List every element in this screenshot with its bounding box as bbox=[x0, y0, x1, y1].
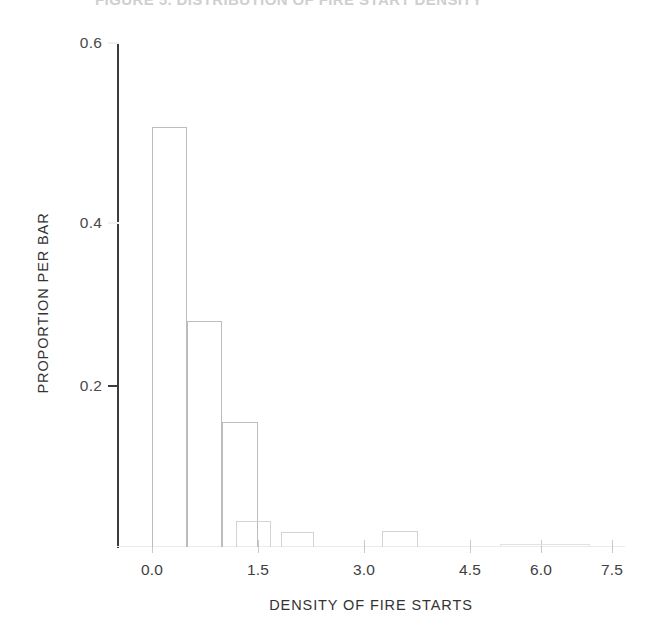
histogram-bar bbox=[152, 127, 187, 547]
x-tick-7.5 bbox=[612, 540, 613, 553]
y-axis-title: PROPORTION PER BAR bbox=[35, 173, 51, 433]
x-tick-3.0-label-wrap: 3.0 bbox=[334, 561, 394, 581]
y-axis-tick-label: 0.2 bbox=[58, 377, 102, 395]
y-tick-0.4-label-wrap: 0.4 bbox=[58, 214, 102, 230]
y-axis-tick-label: 0.6 bbox=[58, 34, 102, 52]
x-axis-title: DENSITY OF FIRE STARTS bbox=[117, 597, 625, 613]
x-tick-1.5-label-wrap: 1.5 bbox=[228, 561, 288, 581]
x-axis-tick-label: 0.0 bbox=[122, 561, 182, 579]
histogram-bar bbox=[187, 321, 222, 547]
x-axis-tick-label: 7.5 bbox=[582, 561, 642, 579]
y-tick-0.2-label-wrap: 0.2 bbox=[58, 377, 102, 393]
plot-area: 0.60.40.2 0.01.53.04.56.07.5 DENSITY OF … bbox=[0, 0, 650, 639]
y-tick-0.6-label-wrap: 0.6 bbox=[58, 34, 102, 50]
y-tick-0.4 bbox=[108, 222, 119, 224]
x-tick-6.0-label-wrap: 6.0 bbox=[511, 561, 571, 581]
x-tick-7.5-label-wrap: 7.5 bbox=[582, 561, 642, 581]
figure-page: FIGURE 5. DISTRIBUTION OF FIRE START DEN… bbox=[0, 0, 650, 639]
x-axis-tick-label: 4.5 bbox=[440, 561, 500, 579]
y-axis-tick-label: 0.4 bbox=[58, 214, 102, 232]
y-tick-0.6 bbox=[108, 42, 119, 44]
x-tick-4.5-label-wrap: 4.5 bbox=[440, 561, 500, 581]
x-tick-4.5 bbox=[470, 540, 471, 553]
histogram-bar bbox=[236, 521, 271, 547]
x-tick-3.0 bbox=[364, 540, 365, 553]
histogram-bar bbox=[500, 544, 590, 547]
y-axis-line bbox=[117, 42, 119, 548]
y-tick-0.2 bbox=[108, 385, 119, 387]
x-axis-tick-label: 6.0 bbox=[511, 561, 571, 579]
x-axis-tick-label: 3.0 bbox=[334, 561, 394, 579]
histogram-bar bbox=[281, 532, 314, 547]
histogram-bar bbox=[382, 531, 418, 547]
x-tick-0.0-label-wrap: 0.0 bbox=[122, 561, 182, 581]
x-axis-tick-label: 1.5 bbox=[228, 561, 288, 579]
